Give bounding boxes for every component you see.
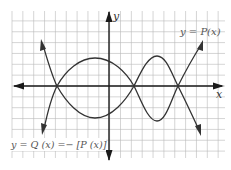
y-axis-down-arrow-icon xyxy=(106,150,113,161)
q-left-arrow-icon xyxy=(41,123,47,135)
y-axis-label: y xyxy=(112,10,120,23)
y-axis-up-arrow-icon xyxy=(106,11,113,22)
p-curve-label: y = P(x) xyxy=(179,26,221,37)
q-of-x-curve xyxy=(44,56,199,130)
x-axis-left-arrow-icon xyxy=(13,83,24,90)
q-right-arrow-icon xyxy=(195,124,201,136)
x-axis-label: x xyxy=(216,88,223,101)
graph-figure: y x y = P(x) y = Q (x) =− [P (x)] xyxy=(0,0,231,170)
p-of-x-curve xyxy=(43,45,201,121)
q-curve-label: y = Q (x) =− [P (x)] xyxy=(10,139,107,150)
p-left-arrow-icon xyxy=(40,39,46,51)
